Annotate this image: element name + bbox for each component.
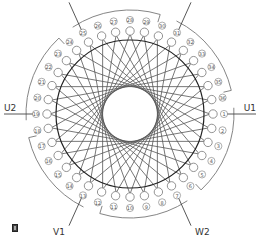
lead-u1: U1 (228, 103, 257, 114)
slot-number: 16 (45, 158, 51, 164)
slot-markers: 1234567891011121314151617181920212223242… (32, 16, 227, 211)
slot-circle (97, 32, 105, 40)
slot-number: 30 (159, 23, 165, 29)
slot-circle (198, 68, 206, 76)
slot-circle (179, 173, 187, 181)
slot-19: 19 (32, 110, 51, 118)
slot-12: 12 (94, 188, 106, 206)
slot-circle (204, 138, 212, 146)
slot-number: 33 (199, 51, 205, 57)
winding-chords (50, 34, 210, 194)
slot-5: 5 (189, 163, 205, 178)
slot-circle (198, 151, 206, 159)
slot-11: 11 (110, 192, 120, 211)
slot-circle (154, 32, 162, 40)
lead-v1: V1 (53, 198, 81, 236)
slot-circle (62, 163, 70, 171)
slot-circle (126, 193, 134, 201)
slot-number: 34 (208, 64, 214, 70)
slot-number: 35 (215, 79, 221, 85)
slot-circle (208, 95, 216, 103)
slot-circle (72, 173, 80, 181)
slot-circle (140, 28, 148, 36)
slot-18: 18 (34, 124, 53, 134)
slot-31: 31 (167, 29, 180, 46)
slot-7: 7 (167, 182, 180, 199)
slot-8: 8 (154, 188, 166, 206)
slot-10: 10 (126, 193, 134, 212)
lead-label: U2 (4, 103, 16, 113)
slot-number: 6 (189, 183, 192, 189)
slot-circle (54, 68, 62, 76)
slot-number: 31 (174, 30, 180, 36)
slot-circle (62, 56, 70, 64)
slot-number: 19 (33, 111, 39, 117)
slot-circle (43, 110, 51, 118)
slot-number: 25 (80, 30, 86, 36)
slot-circle (189, 163, 197, 171)
slot-circle (72, 46, 80, 54)
slot-4: 4 (198, 151, 215, 164)
lead-label: V1 (53, 227, 65, 236)
slot-26: 26 (94, 22, 106, 40)
lead-label: W2 (195, 227, 210, 236)
slot-number: 18 (34, 128, 40, 134)
slot-number: 24 (66, 39, 72, 45)
slot-number: 32 (187, 39, 193, 45)
lead-u2: U2 (4, 103, 33, 114)
slot-circle (204, 81, 212, 89)
slot-33: 33 (189, 50, 205, 65)
slot-13: 13 (79, 182, 92, 199)
slot-circle (126, 27, 134, 35)
slot-number: 1 (222, 111, 225, 117)
slot-number: 8 (161, 200, 164, 206)
slot-6: 6 (179, 173, 194, 189)
slot-30: 30 (154, 22, 166, 40)
slot-9: 9 (140, 192, 150, 211)
slot-number: 12 (95, 200, 101, 206)
slot-28: 28 (126, 16, 134, 35)
slot-circle (167, 182, 175, 190)
slot-25: 25 (79, 29, 92, 46)
phase-group-brackets (26, 10, 234, 218)
slot-15: 15 (54, 163, 70, 178)
slot-number: 20 (34, 95, 40, 101)
slot-3: 3 (204, 138, 222, 150)
slot-circle (179, 46, 187, 54)
slot-number: 5 (200, 172, 203, 178)
slot-number: 11 (110, 204, 116, 210)
slot-14: 14 (66, 173, 81, 189)
slot-32: 32 (179, 38, 194, 54)
slot-circle (111, 28, 119, 36)
slot-circle (209, 110, 217, 118)
slot-circle (84, 38, 92, 46)
slot-number: 7 (175, 193, 178, 199)
lead-label: W1 (50, 0, 65, 2)
slot-number: 10 (127, 205, 133, 211)
slot-number: 27 (110, 19, 116, 25)
winding-diagram: 1234567891011121314151617181920212223242… (0, 0, 260, 236)
slot-17: 17 (38, 138, 56, 150)
slot-number: 21 (38, 79, 44, 85)
slot-number: 13 (80, 193, 86, 199)
slot-number: 4 (210, 158, 213, 164)
slot-number: 29 (143, 19, 149, 25)
slot-circle (97, 188, 105, 196)
document-icon[interactable] (12, 224, 18, 232)
slot-circle (84, 182, 92, 190)
slot-21: 21 (38, 78, 56, 90)
slot-circle (48, 138, 56, 146)
slot-circle (140, 192, 148, 200)
slot-27: 27 (110, 18, 120, 37)
slot-number: 2 (221, 128, 224, 134)
slot-22: 22 (45, 63, 62, 76)
slot-23: 23 (54, 50, 70, 65)
slot-16: 16 (45, 151, 62, 164)
slot-20: 20 (34, 94, 53, 104)
lead-label: U1 (244, 103, 256, 113)
slot-circle (44, 95, 52, 103)
slot-circle (154, 188, 162, 196)
lead-v2: V2 (179, 0, 207, 30)
slot-36: 36 (208, 94, 227, 104)
slot-number: 28 (127, 17, 133, 23)
